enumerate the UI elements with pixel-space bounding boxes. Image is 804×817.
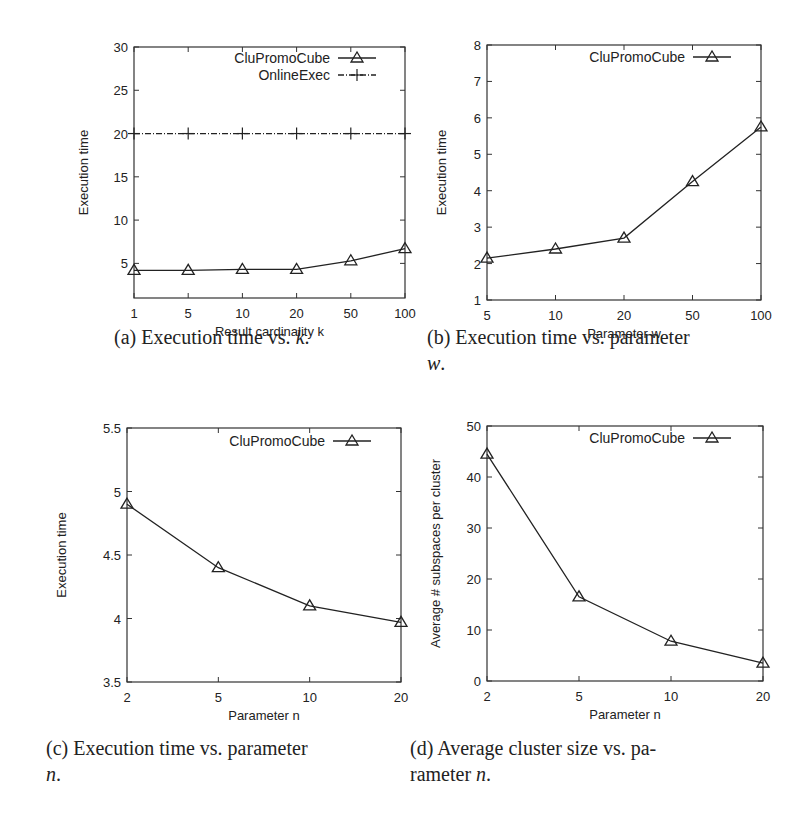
caption-d-var: n — [476, 763, 486, 785]
x-tick-label: 10 — [664, 689, 678, 704]
series-line-clupromocube — [127, 504, 401, 622]
triangle-marker-icon — [182, 264, 194, 274]
y-tick-label: 4 — [474, 184, 481, 199]
legend-triangle-icon — [706, 51, 718, 61]
legend-plus-icon — [351, 69, 363, 81]
x-tick-label: 10 — [235, 306, 249, 321]
x-tick-label: 100 — [394, 306, 416, 321]
y-tick-label: 2 — [474, 257, 481, 272]
y-tick-label: 3.5 — [103, 675, 121, 690]
legend-triangle-icon — [351, 52, 363, 62]
y-tick-label: 20 — [114, 127, 128, 142]
y-tick-label: 50 — [467, 419, 481, 434]
y-tick-label: 4.5 — [103, 548, 121, 563]
plus-marker-icon — [399, 128, 411, 140]
caption-d-text2: rameter — [410, 763, 471, 785]
caption-c: (c) Execution time vs. parameter n. — [46, 735, 308, 787]
legend-label: CluPromoCube — [229, 433, 325, 449]
y-tick-label: 20 — [467, 572, 481, 587]
caption-c-var: n — [46, 763, 56, 785]
y-tick-label: 30 — [467, 521, 481, 536]
y-tick-label: 40 — [467, 470, 481, 485]
y-tick-label: 5.5 — [103, 421, 121, 436]
caption-b-text: Execution time vs. parameter — [455, 326, 689, 348]
legend-label: CluPromoCube — [234, 50, 330, 66]
y-tick-label: 6 — [474, 111, 481, 126]
x-axis-label: Parameter n — [228, 708, 300, 723]
y-tick-label: 10 — [467, 623, 481, 638]
x-tick-label: 2 — [483, 689, 490, 704]
plot-frame — [127, 428, 401, 682]
y-tick-label: 8 — [474, 38, 481, 53]
series-line-clupromocube — [134, 249, 405, 271]
y-axis-label: Execution time — [76, 130, 91, 215]
y-tick-label: 25 — [114, 83, 128, 98]
y-tick-label: 5 — [474, 147, 481, 162]
plot-frame — [487, 45, 761, 300]
y-tick-label: 5 — [114, 485, 121, 500]
chart-a: 5101520253015102050100Result cardinality… — [0, 0, 804, 817]
caption-a-text: Execution time vs. — [141, 326, 290, 348]
caption-b: (b) Execution time vs. parameter w. — [427, 324, 690, 376]
caption-b-var: w — [427, 352, 440, 374]
x-tick-label: 5 — [185, 306, 192, 321]
caption-d-label: (d) — [410, 737, 433, 759]
y-tick-label: 4 — [114, 612, 121, 627]
series-line-clupromocube — [487, 454, 763, 663]
triangle-marker-icon — [665, 635, 677, 645]
y-tick-label: 1 — [474, 293, 481, 308]
legend-triangle-icon — [706, 432, 718, 442]
plus-marker-icon — [128, 128, 140, 140]
caption-c-label: (c) — [46, 737, 68, 759]
triangle-marker-icon — [212, 562, 224, 572]
y-tick-label: 3 — [474, 220, 481, 235]
y-axis-label: Execution time — [54, 512, 69, 597]
plus-marker-icon — [291, 128, 303, 140]
x-tick-label: 50 — [344, 306, 358, 321]
caption-b-label: (b) — [427, 326, 450, 348]
caption-a-var: k — [296, 326, 305, 348]
x-tick-label: 20 — [617, 308, 631, 323]
y-axis-label: Execution time — [434, 130, 449, 215]
x-tick-label: 100 — [750, 308, 772, 323]
triangle-marker-icon — [687, 176, 699, 186]
plus-marker-icon — [236, 128, 248, 140]
x-tick-label: 1 — [130, 306, 137, 321]
legend-label: CluPromoCube — [589, 49, 685, 65]
legend-label: OnlineExec — [258, 67, 330, 83]
y-tick-label: 30 — [114, 40, 128, 55]
chart-a-group: 5101520253015102050100Result cardinality… — [76, 40, 416, 339]
chart-d-group: 01020304050251020Parameter nAverage # su… — [428, 419, 770, 722]
triangle-marker-icon — [618, 232, 630, 242]
caption-a-label: (a) — [114, 326, 136, 348]
x-tick-label: 10 — [548, 308, 562, 323]
caption-d: (d) Average cluster size vs. pa- rameter… — [410, 735, 656, 787]
x-tick-label: 5 — [483, 308, 490, 323]
series-line-clupromocube — [487, 127, 761, 258]
caption-c-text: Execution time vs. parameter — [73, 737, 307, 759]
y-tick-label: 0 — [474, 674, 481, 689]
plot-frame — [134, 47, 405, 298]
legend-label: CluPromoCube — [589, 430, 685, 446]
y-tick-label: 10 — [114, 213, 128, 228]
legend-triangle-icon — [346, 435, 358, 445]
x-tick-label: 50 — [685, 308, 699, 323]
x-tick-label: 20 — [289, 306, 303, 321]
x-tick-label: 5 — [215, 690, 222, 705]
caption-a: (a) Execution time vs. k. — [114, 324, 310, 350]
y-tick-label: 7 — [474, 74, 481, 89]
y-axis-label: Average # subspaces per cluster — [428, 458, 443, 648]
x-tick-label: 20 — [394, 690, 408, 705]
x-tick-label: 10 — [302, 690, 316, 705]
x-tick-label: 2 — [123, 690, 130, 705]
y-tick-label: 15 — [114, 170, 128, 185]
chart-c-group: 3.544.555.5251020Parameter nExecution ti… — [54, 421, 408, 723]
plot-frame — [487, 426, 763, 681]
chart-b-group: 123456785102050100Parameter wExecution t… — [434, 38, 772, 341]
triangle-marker-icon — [304, 600, 316, 610]
triangle-marker-icon — [236, 263, 248, 273]
plus-marker-icon — [182, 128, 194, 140]
x-tick-label: 20 — [756, 689, 770, 704]
caption-d-text: Average cluster size vs. pa- — [437, 737, 656, 759]
plus-marker-icon — [345, 128, 357, 140]
